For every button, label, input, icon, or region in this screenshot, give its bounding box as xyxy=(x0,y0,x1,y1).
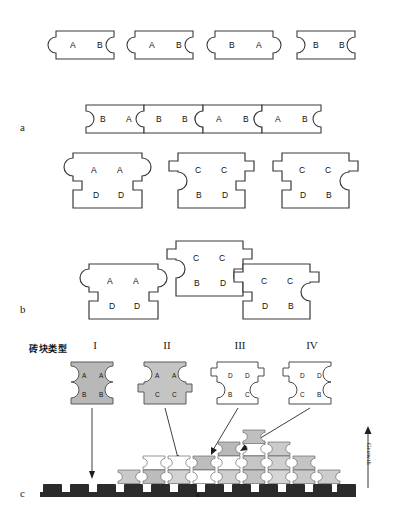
brick-a-chain-2-domain-1: B xyxy=(156,114,162,124)
legend-III-bot-2: C xyxy=(245,391,250,398)
brick-a-chain-2: B B xyxy=(136,105,203,133)
brick-a-T1-bot-2: D xyxy=(118,190,124,200)
brick-a-T1-top-2: A xyxy=(117,165,123,175)
brick-a3: B A xyxy=(207,31,281,59)
assembly-substrate xyxy=(40,484,356,497)
brick-a4-domain-2: B xyxy=(339,40,345,50)
legend-II-top-1: A xyxy=(155,372,160,379)
brick-b-left-top-2: A xyxy=(133,276,139,286)
panel-b-assembly: C C B D A A D D C C D B xyxy=(80,241,319,319)
brick-b-center: C C B D xyxy=(167,241,252,296)
brick-a-T1: A A D D xyxy=(64,153,151,208)
legend-brick-type-III: D D B C xyxy=(211,362,264,404)
brick-b-right-top-2: C xyxy=(287,276,293,286)
panel-a-row2: B A B B A B A B xyxy=(86,105,321,133)
brick-a-T3-top-1: C xyxy=(299,165,305,175)
leader-line-II xyxy=(165,408,178,458)
assembly-row-2 xyxy=(143,456,315,470)
brick-a-chain-4-domain-2: B xyxy=(302,114,308,124)
figure-root: a b c 砖块类型 I II III IV Growth xyxy=(0,0,393,519)
brick-b-right-top-1: C xyxy=(261,276,267,286)
panel-a-row3: A A D D C C B D C C D B xyxy=(64,153,358,208)
legend-III-bot-1: B xyxy=(228,391,232,398)
legend-II-top-2: A xyxy=(172,372,177,379)
brick-a-T2-top-1: C xyxy=(195,165,201,175)
panel-a-row1: A B A B B A B B xyxy=(48,31,355,59)
assembly-row-4 xyxy=(243,430,265,444)
legend-IV-bot-2: B xyxy=(317,391,321,398)
legend-IV-top-2: D xyxy=(317,372,322,379)
brick-a-T3-top-2: C xyxy=(325,165,331,175)
brick-a-chain-1-domain-1: B xyxy=(100,114,106,124)
brick-a-T2-bot-2: D xyxy=(222,190,228,200)
figure-svg: A B A B B A B B xyxy=(0,0,393,519)
brick-b-center-bot-2: D xyxy=(220,278,226,288)
brick-b-center-top-2: C xyxy=(219,253,225,263)
brick-a-chain-2-domain-2: B xyxy=(182,114,188,124)
growth-axis xyxy=(365,426,372,488)
legend-IV-top-1: D xyxy=(300,372,305,379)
brick-b-center-top-1: C xyxy=(193,253,199,263)
brick-a-chain-3: A B xyxy=(195,105,262,133)
legend-brick-type-I: A A B B xyxy=(71,362,113,404)
brick-a4-domain-1: B xyxy=(313,40,319,50)
brick-a2-domain-1: A xyxy=(149,40,155,50)
legend-I-bot-2: B xyxy=(99,391,103,398)
brick-a4: B B xyxy=(297,31,355,59)
brick-a-chain-4-domain-1: A xyxy=(275,114,281,124)
assembly-row-1 xyxy=(118,470,340,484)
brick-b-center-bot-1: B xyxy=(194,278,200,288)
brick-a-T1-bot-1: D xyxy=(93,190,99,200)
brick-b-right-bot-1: D xyxy=(262,301,268,311)
brick-b-right-bot-2: B xyxy=(288,301,294,311)
brick-a-T3-bot-2: B xyxy=(326,190,332,200)
assembly-row-3 xyxy=(218,442,290,456)
brick-a1-domain-2: B xyxy=(97,40,103,50)
brick-a3-domain-2: A xyxy=(256,40,262,50)
brick-a2: A B xyxy=(127,31,193,59)
leader-arrowhead-I xyxy=(89,471,95,479)
substrate-anchors xyxy=(43,484,356,493)
brick-b-left-bot-1: D xyxy=(109,301,115,311)
brick-a-T1-top-1: A xyxy=(91,165,97,175)
brick-a-chain-3-domain-2: B xyxy=(243,114,249,124)
assembly-stack xyxy=(118,430,340,484)
panel-c-legend: A A B B A A C C D D B C xyxy=(71,362,331,404)
brick-a-T3-bot-1: D xyxy=(300,190,306,200)
legend-III-top-2: D xyxy=(245,372,250,379)
brick-a-T2-bot-1: B xyxy=(196,190,202,200)
legend-brick-type-IV: D D C B xyxy=(283,362,331,404)
brick-a-chain-1-domain-2: A xyxy=(126,114,132,124)
legend-II-bot-2: C xyxy=(172,391,177,398)
brick-a3-domain-1: B xyxy=(229,40,235,50)
growth-axis-arrowhead xyxy=(365,426,372,434)
brick-a-chain-4: A B xyxy=(254,105,321,133)
brick-a-T2-top-2: C xyxy=(221,165,227,175)
brick-a-chain-3-domain-1: A xyxy=(216,114,222,124)
brick-a-T3: C C D B xyxy=(273,153,358,208)
legend-III-top-1: D xyxy=(228,372,233,379)
legend-I-top-1: A xyxy=(82,372,87,379)
brick-a1-domain-1: A xyxy=(70,40,76,50)
legend-I-top-2: A xyxy=(99,372,104,379)
legend-IV-bot-1: C xyxy=(300,391,305,398)
brick-a1: A B xyxy=(48,31,114,59)
brick-a2-domain-2: B xyxy=(176,40,182,50)
brick-b-left: A A D D xyxy=(80,264,167,319)
brick-a-T2: C C B D xyxy=(169,153,254,208)
legend-II-bot-1: C xyxy=(155,391,160,398)
brick-b-left-bot-2: D xyxy=(134,301,140,311)
legend-brick-type-II: A A C C xyxy=(138,362,192,404)
brick-b-left-top-1: A xyxy=(107,276,113,286)
substrate-center-mark xyxy=(196,494,199,497)
brick-b-right: C C D B xyxy=(234,264,319,319)
legend-I-bot-1: B xyxy=(82,391,86,398)
